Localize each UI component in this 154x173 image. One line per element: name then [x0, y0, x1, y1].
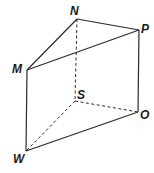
edge-S-O: [75, 101, 138, 112]
vertex-label-W: W: [13, 152, 26, 166]
triangular-prism-diagram: N P M S O W: [0, 0, 154, 173]
edge-N-P: [77, 19, 139, 30]
edge-N-M: [27, 19, 77, 70]
vertex-label-N: N: [70, 4, 79, 18]
edge-S-W: [26, 101, 75, 151]
visible-edges: [26, 19, 139, 151]
edge-W-O: [26, 112, 138, 151]
vertex-label-M: M: [12, 62, 23, 76]
vertex-label-O: O: [140, 108, 150, 122]
vertex-label-P: P: [141, 22, 150, 36]
edge-M-P: [27, 30, 139, 70]
edge-P-O: [138, 30, 139, 112]
vertex-label-S: S: [77, 88, 85, 102]
edge-M-W: [26, 70, 27, 151]
